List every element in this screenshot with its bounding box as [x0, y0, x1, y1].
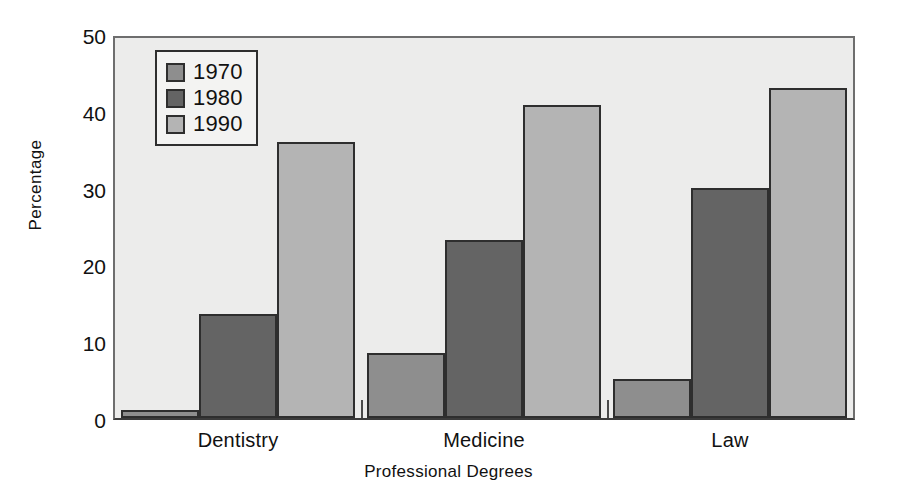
legend-item-1990: 1990 — [166, 111, 243, 137]
x-axis-separator-tick — [361, 400, 363, 418]
y-axis-tick-label: 10 — [60, 333, 106, 354]
x-axis-category-label-dentistry: Dentistry — [198, 429, 279, 452]
bar-medicine-1970 — [367, 353, 445, 418]
x-axis-title: Professional Degrees — [0, 462, 897, 482]
bar-law-1990 — [769, 88, 847, 418]
bar-law-1970 — [613, 379, 691, 418]
y-axis-title: Percentage — [26, 105, 46, 265]
y-axis-tick-label: 0 — [60, 410, 106, 431]
y-axis-tick-label: 50 — [60, 26, 106, 47]
y-axis-tick-label: 40 — [60, 102, 106, 123]
legend-swatch-icon — [166, 89, 185, 108]
legend-swatch-icon — [166, 115, 185, 134]
plot-area: 197019801990 — [113, 36, 855, 420]
legend-item-1970: 1970 — [166, 59, 243, 85]
bar-dentistry-1980 — [199, 314, 277, 418]
y-axis-tick-label: 30 — [60, 179, 106, 200]
legend-item-label: 1990 — [193, 113, 243, 135]
legend-swatch-icon — [166, 63, 185, 82]
bar-law-1980 — [691, 188, 769, 418]
legend-item-1980: 1980 — [166, 85, 243, 111]
x-axis-separator-tick — [607, 400, 609, 418]
bar-medicine-1980 — [445, 240, 523, 418]
legend-item-label: 1970 — [193, 61, 243, 83]
y-axis-tick-label: 20 — [60, 256, 106, 277]
bar-chart-figure: Percentage 01020304050 197019801990 Dent… — [0, 0, 897, 497]
y-axis-tick-labels: 01020304050 — [50, 0, 106, 497]
bar-medicine-1990 — [523, 105, 601, 418]
chart-legend: 197019801990 — [155, 50, 258, 146]
x-axis-category-label-law: Law — [711, 429, 748, 452]
legend-item-label: 1980 — [193, 87, 243, 109]
bar-dentistry-1970 — [121, 410, 199, 418]
x-axis-category-label-medicine: Medicine — [443, 429, 525, 452]
bar-dentistry-1990 — [277, 142, 355, 418]
